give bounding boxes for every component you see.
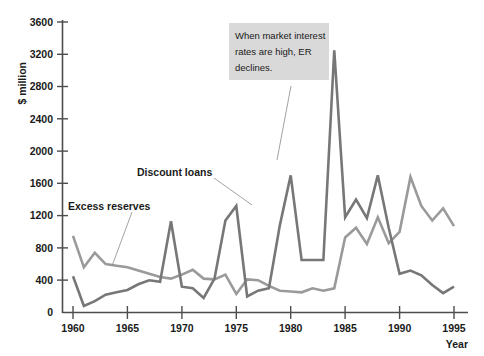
- x-tick-label: 1970: [170, 322, 194, 334]
- x-tick-label: 1995: [442, 322, 466, 334]
- y-tick-label: 800: [35, 242, 53, 254]
- annotation-line-3: declines.: [235, 62, 273, 73]
- y-tick-label: 2000: [30, 145, 54, 157]
- y-tick-label: 1200: [30, 209, 54, 221]
- y-tick-label: 3600: [30, 16, 54, 28]
- x-tick-label: 1975: [225, 322, 249, 334]
- y-tick-label: 3200: [30, 48, 54, 60]
- line-chart: 3600 3200 2800 2400 2000 1600 1200 800 4…: [0, 0, 484, 356]
- y-tick-label: 0: [47, 306, 53, 318]
- y-tick-label: 400: [35, 274, 53, 286]
- x-tick-label: 1985: [333, 322, 357, 334]
- x-tick-label: 1990: [388, 322, 412, 334]
- chart-container: 3600 3200 2800 2400 2000 1600 1200 800 4…: [0, 0, 484, 356]
- x-tick-label: 1960: [61, 322, 85, 334]
- y-axis-title: $ million: [16, 62, 28, 105]
- x-axis-title: Year: [446, 338, 468, 350]
- annotation-line-1: When market interest: [235, 30, 326, 41]
- annotation-line-2: rates are high, ER: [235, 46, 312, 57]
- annotation-callout: When market interest rates are high, ER …: [229, 23, 329, 80]
- y-tick-label: 2400: [30, 113, 54, 125]
- y-tick-label: 1600: [30, 177, 54, 189]
- x-tick-label: 1965: [116, 322, 140, 334]
- y-tick-label: 2800: [30, 80, 54, 92]
- x-tick-label: 1980: [279, 322, 303, 334]
- series-label-excess-reserves: Excess reserves: [68, 200, 150, 212]
- series-label-discount-loans: Discount loans: [137, 166, 212, 178]
